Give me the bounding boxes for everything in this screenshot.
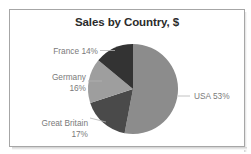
pie-label-great-britain: Great Britain 17%	[16, 118, 88, 139]
pie-label-germany: Germany 16%	[24, 72, 86, 93]
pie-label-usa: USA 53%	[194, 91, 251, 102]
pie-label-france: France 14%	[36, 46, 98, 57]
chart-frame: Sales by Country, $ France 14% Germany 1…	[9, 9, 245, 147]
chart-screenshot: Sales by Country, $ France 14% Germany 1…	[0, 0, 251, 154]
